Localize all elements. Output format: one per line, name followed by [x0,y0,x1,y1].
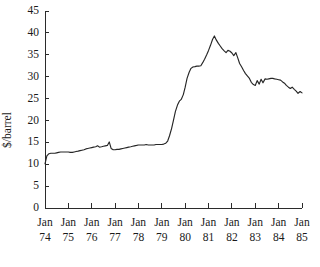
y-axis-tick-labels: 051015202530354045 [28,4,40,213]
x-tick-year-75: 75 [63,231,75,243]
x-tick-month-75: Jan [61,216,77,228]
x-tick-month-83: Jan [248,216,264,228]
x-tick-year-76: 76 [86,231,98,243]
y-tick-label-5: 5 [33,179,39,191]
x-tick-year-78: 78 [133,231,145,243]
y-tick-label-35: 35 [28,48,40,60]
price-series-line [45,36,302,164]
x-tick-month-80: Jan [178,216,194,228]
y-tick-label-30: 30 [28,70,40,82]
x-tick-month-79: Jan [154,216,170,228]
x-tick-month-77: Jan [107,216,123,228]
y-tick-label-15: 15 [28,135,40,147]
chart-canvas: 051015202530354045 Jan74Jan75Jan76Jan77J… [0,0,320,267]
y-tick-label-45: 45 [28,4,40,16]
x-tick-month-76: Jan [84,216,100,228]
x-tick-year-77: 77 [109,231,121,243]
y-tick-label-0: 0 [33,201,39,213]
x-tick-month-74: Jan [37,216,53,228]
y-axis-title: $/barrel [1,112,13,148]
y-tick-label-25: 25 [28,92,40,104]
y-axis-ticks [45,11,49,208]
x-tick-year-80: 80 [179,231,191,243]
x-tick-month-82: Jan [224,216,240,228]
y-tick-label-10: 10 [28,157,40,169]
x-tick-year-85: 85 [296,231,308,243]
oil-price-chart: 051015202530354045 Jan74Jan75Jan76Jan77J… [0,0,320,267]
x-tick-month-85: Jan [294,216,310,228]
x-tick-month-81: Jan [201,216,217,228]
x-axis-ticks [45,203,302,208]
x-tick-year-84: 84 [273,231,285,243]
y-tick-label-20: 20 [28,114,40,126]
x-tick-year-81: 81 [203,231,215,243]
x-tick-year-79: 79 [156,231,168,243]
x-tick-month-78: Jan [131,216,147,228]
x-tick-year-74: 74 [39,231,51,243]
x-axis-tick-labels: Jan74Jan75Jan76Jan77Jan78Jan79Jan80Jan81… [37,216,310,243]
y-tick-label-40: 40 [28,26,40,38]
x-tick-year-83: 83 [250,231,262,243]
x-tick-year-82: 82 [226,231,238,243]
x-tick-month-84: Jan [271,216,287,228]
